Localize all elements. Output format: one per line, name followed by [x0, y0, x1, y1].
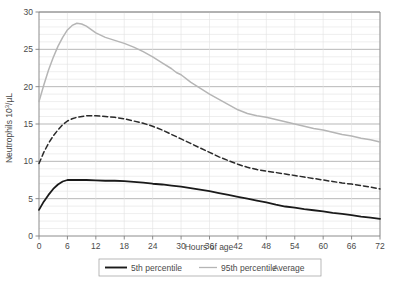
legend-label: Average — [273, 263, 305, 273]
y-tick-label: 30 — [24, 7, 34, 17]
x-tick-label: 48 — [262, 241, 272, 251]
x-axis-title: Hours of age — [185, 242, 234, 252]
x-tick-label: 54 — [290, 241, 300, 251]
y-tick-label: 25 — [24, 44, 34, 54]
x-tick-label: 42 — [233, 241, 243, 251]
y-tick-label: 15 — [24, 119, 34, 129]
x-tick-label: 24 — [148, 241, 158, 251]
y-axis-title-tail: /µL — [4, 93, 14, 105]
chart-container: 061218243036424854606672 051015202530 Ho… — [0, 0, 406, 284]
legend-label: 95th percentile — [221, 263, 277, 273]
svg-text:Neutrophils 103/µL: Neutrophils 103/µL — [4, 93, 14, 163]
y-tick-label: 5 — [28, 194, 33, 204]
y-tick-label: 20 — [24, 82, 34, 92]
legend-label: 5th percentile — [131, 263, 182, 273]
x-tick-label: 60 — [318, 241, 328, 251]
y-axis-title-main: Neutrophils 10 — [4, 108, 14, 163]
x-tick-label: 18 — [120, 241, 130, 251]
x-tick-label: 72 — [375, 241, 385, 251]
chart-legend: 5th percentile95th percentileAverage — [99, 259, 321, 276]
x-tick-label: 12 — [91, 241, 101, 251]
neutrophils-line-chart: 061218243036424854606672 051015202530 Ho… — [0, 0, 406, 284]
x-tick-label: 0 — [37, 241, 42, 251]
x-tick-label: 66 — [347, 241, 357, 251]
x-tick-label: 6 — [65, 241, 70, 251]
y-tick-label: 0 — [28, 231, 33, 241]
y-tick-label: 10 — [24, 156, 34, 166]
y-axis-title-group: Neutrophils 103/µL — [4, 93, 14, 163]
legend-item-average[interactable]: Average — [273, 263, 305, 273]
